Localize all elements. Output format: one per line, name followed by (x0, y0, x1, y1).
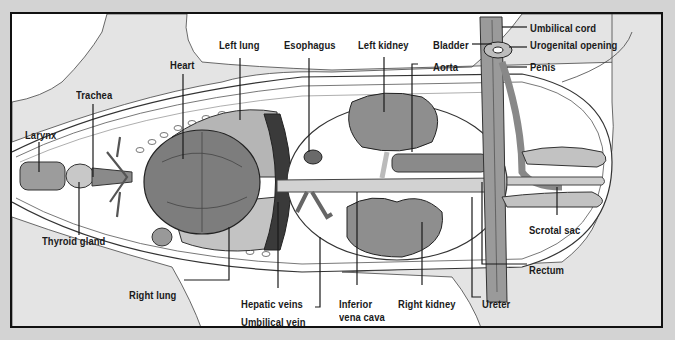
diagram-frame: Larynx Trachea Heart Left lung Esophagus… (10, 12, 663, 328)
thyroid-shape (66, 164, 94, 188)
label-left-kidney: Left kidney (358, 39, 409, 52)
label-urogenital-opening: Urogenital opening (530, 39, 617, 52)
vena-cava-shape (277, 178, 502, 192)
label-ureter: Ureter (482, 298, 510, 311)
label-penis: Penis (530, 61, 556, 74)
label-hepatic-veins: Hepatic veins (241, 298, 303, 311)
esophagus-shape (304, 150, 322, 164)
larynx-shape (20, 162, 65, 190)
label-right-lung: Right lung (129, 289, 176, 302)
label-larynx: Larynx (25, 129, 56, 142)
label-left-lung: Left lung (219, 39, 260, 52)
label-rectum: Rectum (529, 264, 564, 277)
label-aorta: Aorta (433, 61, 458, 74)
left-kidney-shape (349, 93, 438, 151)
label-umbilical-vein: Umbilical vein (241, 316, 306, 328)
label-inferior-vena-cava-2: vena cava (339, 311, 385, 324)
scrotal-sac-shape (522, 147, 606, 167)
label-inferior-vena-cava-1: Inferior (339, 298, 372, 311)
label-thyroid-gland: Thyroid gland (42, 235, 105, 248)
label-esophagus: Esophagus (284, 39, 336, 52)
label-heart: Heart (170, 59, 195, 72)
fetal-pig-illustration (12, 14, 663, 328)
label-right-kidney: Right kidney (398, 298, 456, 311)
aorta-shape (392, 154, 487, 172)
label-umbilical-cord: Umbilical cord (530, 22, 596, 35)
label-trachea: Trachea (76, 89, 112, 102)
label-scrotal-sac: Scrotal sac (529, 224, 580, 237)
label-bladder: Bladder (433, 39, 469, 52)
